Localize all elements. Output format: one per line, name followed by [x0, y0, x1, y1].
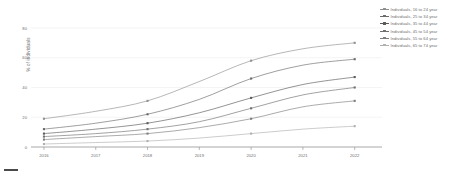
figure-caption: [4, 167, 304, 172]
svg-text:2019: 2019: [195, 153, 205, 158]
legend-item[interactable]: Individuals, 65 to 74 year: [380, 42, 460, 49]
legend-marker-icon: [380, 20, 389, 27]
svg-text:2021: 2021: [298, 153, 308, 158]
svg-text:2022: 2022: [350, 153, 360, 158]
svg-text:2020: 2020: [246, 153, 256, 158]
legend-marker-icon: [380, 35, 389, 42]
legend-item-label: Individuals, 16 to 24 year: [389, 7, 437, 12]
svg-text:2017: 2017: [91, 153, 101, 158]
gridlines: [31, 28, 382, 147]
legend-item[interactable]: Individuals, 35 to 44 year: [380, 20, 460, 27]
y-axis-ticks: 020406080: [22, 26, 27, 150]
svg-text:0: 0: [25, 145, 28, 150]
svg-text:2016: 2016: [39, 153, 49, 158]
x-axis-ticks: 2016201720182019202020212022: [39, 147, 360, 158]
legend-item-label: Individuals, 65 to 74 year: [389, 43, 437, 48]
chart-container: % of individuals 020406080 2016201720182…: [0, 0, 462, 172]
legend-item[interactable]: Individuals, 55 to 64 year: [380, 35, 460, 42]
svg-text:80: 80: [22, 26, 27, 31]
legend-item[interactable]: Individuals, 16 to 24 year: [380, 6, 460, 13]
svg-text:20: 20: [22, 115, 27, 120]
svg-text:2018: 2018: [143, 153, 153, 158]
legend-marker-icon: [380, 28, 389, 35]
series-lines: [44, 43, 355, 144]
legend-marker-icon: [380, 42, 389, 49]
svg-text:40: 40: [22, 85, 27, 90]
legend-item[interactable]: Individuals, 25 to 34 year: [380, 13, 460, 20]
legend-marker-icon: [380, 6, 389, 13]
legend-item[interactable]: Individuals, 45 to 54 year: [380, 28, 460, 35]
chart-legend: Individuals, 16 to 24 yearIndividuals, 2…: [380, 6, 460, 49]
legend-item-label: Individuals, 35 to 44 year: [389, 21, 437, 26]
svg-text:60: 60: [22, 55, 27, 60]
legend-item-label: Individuals, 45 to 54 year: [389, 29, 437, 34]
caption-swatch: [4, 169, 18, 171]
legend-marker-icon: [380, 13, 389, 20]
legend-item-label: Individuals, 55 to 64 year: [389, 36, 437, 41]
legend-item-label: Individuals, 25 to 34 year: [389, 14, 437, 19]
